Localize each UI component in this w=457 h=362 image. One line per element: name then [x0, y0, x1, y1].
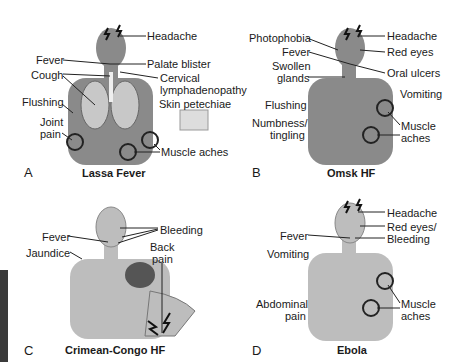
panel-letter: D	[252, 343, 261, 358]
label-bleeding: Bleeding	[387, 233, 430, 245]
panel-title: Ebola	[337, 344, 367, 356]
label-vomiting: Vomiting	[267, 248, 309, 260]
label-back: Back	[150, 241, 174, 253]
label-headache: Headache	[387, 207, 437, 219]
panel-ebola: Headache Fever Red eyes/ Bleeding Vomiti…	[230, 181, 457, 362]
label-tingling: tingling	[270, 129, 305, 141]
panel-title: Omsk HF	[327, 167, 375, 179]
panel-title: Crimean-Congo HF	[65, 344, 165, 356]
label-fever: Fever	[36, 54, 64, 66]
label-fever: Fever	[282, 46, 310, 58]
panel-crimean-congo-hf: Fever Bleeding Jaundice Back pain C Crim…	[0, 181, 228, 362]
label-skin-petechiae: Skin petechiae	[159, 98, 231, 110]
label-bleeding: Bleeding	[160, 224, 203, 236]
panel-lassa-fever: Headache Fever Palate blister Cough Cerv…	[0, 0, 228, 181]
label-oral-ulcers: Oral ulcers	[387, 67, 440, 79]
label-pain: pain	[285, 310, 306, 322]
label-palate-blister: Palate blister	[147, 58, 211, 70]
label-fever: Fever	[42, 231, 70, 243]
label-red-eyes: Red eyes/	[387, 221, 437, 233]
label-red-eyes: Red eyes	[387, 46, 433, 58]
label-glands: glands	[277, 72, 309, 84]
label-flushing: Flushing	[22, 96, 64, 108]
label-abdominal: Abdominal	[256, 298, 308, 310]
label-fever: Fever	[280, 230, 308, 242]
label-pain: pain	[152, 253, 173, 265]
label-muscle-aches: Muscle aches	[161, 146, 228, 158]
panel-letter: C	[24, 343, 33, 358]
label-aches: aches	[401, 132, 430, 144]
label-photophobia: Photophobia	[249, 32, 311, 44]
panel-letter: A	[24, 165, 33, 180]
label-muscle: Muscle	[401, 298, 436, 310]
panel-letter: B	[252, 165, 261, 180]
label-aches: aches	[401, 310, 430, 322]
label-headache: Headache	[387, 30, 437, 42]
label-joint: Joint	[40, 116, 63, 128]
label-jaundice: Jaundice	[26, 247, 70, 259]
label-muscle: Muscle	[401, 120, 436, 132]
label-cough: Cough	[31, 69, 63, 81]
label-cervical: Cervical	[160, 72, 200, 84]
panel-omsk-hf: Photophobia Headache Fever Red eyes Swol…	[230, 0, 457, 181]
label-pain: pain	[40, 128, 61, 140]
panel-title: Lassa Fever	[82, 167, 146, 179]
label-swollen: Swollen	[272, 60, 311, 72]
label-headache: Headache	[147, 30, 197, 42]
label-flushing: Flushing	[265, 99, 307, 111]
figure-c-body	[0, 181, 228, 362]
label-numbness: Numbness/	[252, 117, 308, 129]
label-vomiting: Vomiting	[400, 88, 442, 100]
